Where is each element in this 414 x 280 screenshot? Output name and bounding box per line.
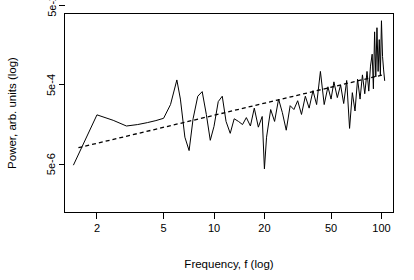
- spectrum-line-series: [74, 21, 385, 169]
- x-tick-label: 50: [325, 222, 337, 234]
- data-series-layer: [74, 21, 385, 169]
- y-axis-ticks: 5e-65e-45e-2: [46, 0, 65, 175]
- x-tick-label: 20: [258, 222, 270, 234]
- y-axis-title: Power, arb. units (log): [6, 57, 18, 169]
- x-axis-ticks: 25102050100: [94, 213, 391, 234]
- plot-box-border: [65, 14, 394, 213]
- chart-canvas: 25102050100 5e-65e-45e-2 Frequency, f (l…: [0, 0, 414, 280]
- y-tick-label: 5e-4: [46, 74, 58, 96]
- x-tick-label: 5: [161, 222, 167, 234]
- x-tick-label: 100: [372, 222, 390, 234]
- trend-line-series: [78, 75, 384, 148]
- plot-frame: [65, 14, 394, 213]
- x-tick-label: 2: [94, 222, 100, 234]
- y-tick-label: 5e-2: [46, 0, 58, 17]
- x-tick-label: 10: [208, 222, 220, 234]
- chart-figure: 25102050100 5e-65e-45e-2 Frequency, f (l…: [0, 0, 414, 280]
- y-tick-label: 5e-6: [46, 153, 58, 175]
- x-axis-title: Frequency, f (log): [184, 258, 273, 270]
